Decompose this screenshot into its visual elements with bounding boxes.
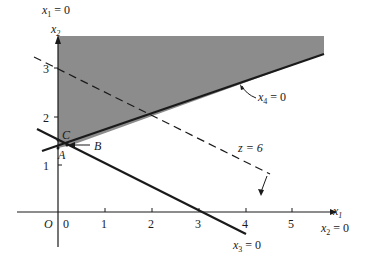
- label-x1-zero: x1 = 0: [41, 3, 70, 19]
- x4-leader-line: [242, 86, 256, 98]
- point-b-label: B: [94, 139, 102, 153]
- x-axis-label: x1: [332, 204, 342, 220]
- origin-label: O: [44, 217, 53, 231]
- x-tick-1: 1: [101, 217, 107, 231]
- x4-leader-arrow-icon: [240, 84, 244, 90]
- y-axis-label: x2: [50, 22, 60, 38]
- point-a-label: A: [57, 148, 66, 162]
- point-c-label: C: [62, 128, 71, 142]
- lp-diagram: 0 1 2 3 4 5 1 2 3 O x1 x2 x1 = 0 x2 = 0 …: [0, 0, 372, 266]
- y-tick-1: 1: [43, 159, 49, 173]
- x-tick-3: 3: [195, 217, 201, 231]
- y-tick-3: 3: [43, 62, 49, 76]
- objective-arrowhead-icon: [258, 189, 264, 196]
- y-tick-2: 2: [43, 111, 49, 125]
- diagram-svg: 0 1 2 3 4 5 1 2 3 O x1 x2 x1 = 0 x2 = 0 …: [0, 0, 372, 266]
- x-tick-5: 5: [288, 217, 294, 231]
- objective-direction-icon: [261, 176, 267, 192]
- x-tick-4: 4: [242, 217, 248, 231]
- objective-label: z = 6: [237, 141, 263, 155]
- x-tick-2: 2: [148, 217, 154, 231]
- x-tick-0: 0: [63, 217, 69, 231]
- label-x2-zero: x2 = 0: [320, 221, 349, 237]
- point-c-marker: [57, 139, 60, 142]
- label-x4-zero: x4 = 0: [257, 90, 286, 106]
- label-x3-zero: x3 = 0: [232, 238, 261, 254]
